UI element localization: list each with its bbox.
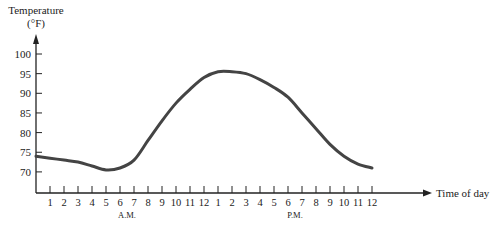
- temperature-line: [36, 71, 372, 170]
- x-axis-ticks: 123456789101112123456789101112A.M.P.M.: [47, 186, 377, 220]
- svg-text:4: 4: [89, 197, 95, 208]
- svg-text:95: 95: [20, 68, 32, 80]
- svg-text:80: 80: [20, 127, 32, 139]
- svg-text:1: 1: [47, 197, 52, 208]
- svg-text:90: 90: [20, 87, 32, 99]
- svg-text:5: 5: [271, 197, 276, 208]
- svg-text:2: 2: [61, 197, 66, 208]
- svg-text:A.M.: A.M.: [118, 210, 136, 220]
- svg-text:1: 1: [215, 197, 220, 208]
- svg-text:10: 10: [171, 197, 182, 208]
- svg-text:2: 2: [229, 197, 234, 208]
- svg-text:75: 75: [20, 146, 32, 158]
- svg-text:8: 8: [313, 197, 318, 208]
- svg-text:9: 9: [159, 197, 164, 208]
- svg-text:5: 5: [103, 197, 108, 208]
- temperature-chart: Temperature (°F) 707580859095100 1234567…: [0, 0, 497, 231]
- svg-text:8: 8: [145, 197, 150, 208]
- x-axis-title: Time of day: [436, 187, 490, 199]
- svg-text:12: 12: [367, 197, 378, 208]
- svg-text:6: 6: [285, 197, 290, 208]
- svg-text:11: 11: [353, 197, 363, 208]
- svg-text:11: 11: [185, 197, 195, 208]
- svg-text:7: 7: [131, 197, 136, 208]
- svg-text:9: 9: [327, 197, 332, 208]
- svg-text:12: 12: [199, 197, 210, 208]
- svg-text:100: 100: [15, 48, 32, 60]
- y-axis-unit: (°F): [27, 17, 45, 30]
- svg-text:10: 10: [339, 197, 350, 208]
- svg-text:6: 6: [117, 197, 122, 208]
- svg-text:70: 70: [20, 166, 32, 178]
- y-axis-ticks: 707580859095100: [15, 48, 43, 178]
- svg-text:85: 85: [20, 107, 32, 119]
- axes: [33, 34, 432, 197]
- svg-text:3: 3: [75, 197, 80, 208]
- svg-text:4: 4: [257, 197, 263, 208]
- y-axis-title: Temperature: [8, 4, 64, 16]
- svg-text:P.M.: P.M.: [287, 210, 303, 220]
- svg-text:3: 3: [243, 197, 248, 208]
- svg-text:7: 7: [299, 197, 304, 208]
